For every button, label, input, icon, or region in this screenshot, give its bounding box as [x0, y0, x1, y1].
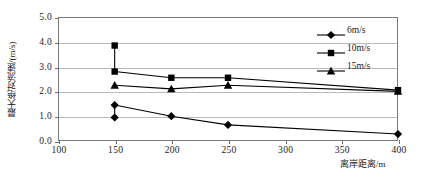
- y-axis-tick-label: 4.0: [39, 38, 52, 48]
- y-axis-tick-label: 1.0: [39, 112, 52, 122]
- x-axis-tick-label: 350: [335, 146, 350, 156]
- y-axis-tick-label: 0.0: [39, 137, 52, 147]
- legend-label: 6m/s: [347, 26, 365, 36]
- chart-legend: 6m/s10m/s15m/s: [316, 26, 370, 72]
- series-15m-s: [110, 81, 402, 95]
- series-line: [115, 105, 398, 134]
- series-line: [115, 85, 398, 91]
- series-6m-s: [111, 101, 403, 138]
- x-axis-tick-label: 200: [165, 146, 180, 156]
- legend-item-10m-s: 10m/s: [316, 44, 370, 54]
- data-point-marker: [328, 50, 334, 56]
- series-line: [115, 72, 398, 91]
- chart-figure: 最大绝对流速/(m/s) 0.01.02.03.04.05.0100150200…: [0, 0, 430, 181]
- y-axis-title: 最大绝对流速/(m/s): [4, 17, 20, 141]
- legend-item-15m-s: 15m/s: [316, 62, 370, 72]
- legend-label: 10m/s: [347, 44, 370, 54]
- data-point-marker: [110, 81, 118, 89]
- data-point-marker: [327, 31, 335, 39]
- data-point-marker: [394, 130, 402, 138]
- x-axis-tick-label: 250: [221, 146, 236, 156]
- data-point-marker: [225, 75, 231, 81]
- data-point-marker: [111, 68, 117, 74]
- diamond-icon: [316, 26, 346, 36]
- triangle-icon: [316, 62, 346, 72]
- x-axis-title: 离岸距离/m: [340, 160, 386, 169]
- x-axis-tick-label: 300: [278, 146, 293, 156]
- data-point-marker: [111, 101, 119, 109]
- x-axis-tick-label: 400: [391, 146, 406, 156]
- y-axis-tick-label: 2.0: [39, 88, 52, 98]
- data-point-marker: [224, 121, 232, 129]
- x-axis-tick-label: 100: [51, 146, 66, 156]
- data-point-marker: [167, 112, 175, 120]
- x-axis-tick-label: 150: [108, 146, 123, 156]
- y-axis-tick-label: 3.0: [39, 63, 52, 73]
- data-point-marker: [111, 42, 117, 48]
- data-point-marker: [111, 113, 119, 121]
- legend-item-6m-s: 6m/s: [316, 26, 370, 36]
- legend-label: 15m/s: [347, 62, 370, 72]
- data-point-marker: [168, 75, 174, 81]
- x-axis-tick: [399, 140, 400, 144]
- y-axis-tick-label: 5.0: [39, 13, 52, 23]
- square-icon: [316, 44, 346, 54]
